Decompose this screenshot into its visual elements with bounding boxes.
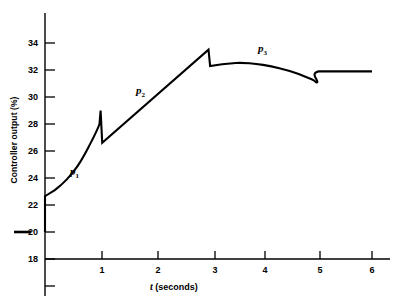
y-axis-label: Controller output (%)	[9, 80, 19, 200]
xtick-label-2: 2	[151, 266, 165, 275]
xtick-label-4: 4	[258, 266, 272, 275]
y-axis-ticks	[45, 43, 55, 286]
annotation-p3-sub: 3	[264, 49, 268, 57]
annotation-p1: p1	[70, 165, 79, 180]
xtick-label-5: 5	[313, 266, 327, 275]
chart-figure: 34 32 30 28 26 24 22 20 18 1 2 3 4 5 6 C…	[0, 0, 399, 308]
ytick-label-22: 22	[20, 201, 38, 210]
ytick-label-32: 32	[20, 66, 38, 75]
ytick-label-28: 28	[20, 120, 38, 129]
ytick-label-20: 20	[20, 228, 38, 237]
xtick-label-1: 1	[95, 266, 109, 275]
annotation-p3: p3	[258, 42, 267, 57]
annotation-p2-sub: 2	[142, 91, 146, 99]
ytick-label-34: 34	[20, 39, 38, 48]
chart-canvas	[0, 0, 399, 308]
xtick-label-6: 6	[365, 266, 379, 275]
x-axis-label-unit: (seconds)	[155, 282, 198, 292]
x-axis-label-symbol: t	[150, 281, 153, 292]
x-axis-label: t (seconds)	[150, 281, 198, 292]
ytick-label-24: 24	[20, 174, 38, 183]
xtick-label-3: 3	[208, 266, 222, 275]
ytick-label-26: 26	[20, 147, 38, 156]
annotation-p2: p2	[136, 84, 145, 99]
x-axis-ticks	[102, 251, 372, 259]
data-series-line	[45, 50, 372, 232]
ytick-label-30: 30	[20, 93, 38, 102]
ytick-label-18: 18	[20, 255, 38, 264]
annotation-p1-sub: 1	[76, 172, 80, 180]
